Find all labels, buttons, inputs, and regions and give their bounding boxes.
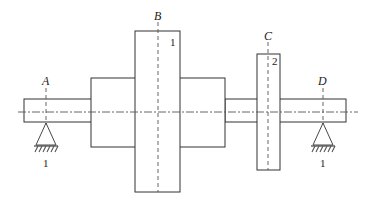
hub-right bbox=[179, 78, 225, 147]
part-number-disk-c: 2 bbox=[272, 55, 278, 67]
part-number-support-d: 1 bbox=[320, 157, 326, 169]
part-number-disk-b: 1 bbox=[170, 36, 176, 48]
support-a-triangle-icon bbox=[36, 123, 56, 145]
shaft-right bbox=[225, 99, 346, 122]
hub-left bbox=[91, 78, 136, 147]
label-b: B bbox=[154, 9, 162, 23]
support-a-hatch-icon bbox=[35, 146, 58, 152]
shaft-diagram: A B C D 1 2 1 1 bbox=[0, 0, 368, 204]
support-d bbox=[311, 123, 335, 152]
shaft-left bbox=[24, 99, 92, 122]
support-d-triangle-icon bbox=[313, 123, 333, 145]
support-d-hatch-icon bbox=[312, 146, 335, 152]
support-a bbox=[34, 123, 58, 152]
part-number-support-a: 1 bbox=[43, 157, 49, 169]
label-d: D bbox=[317, 74, 327, 88]
label-a: A bbox=[41, 74, 50, 88]
disk-b bbox=[135, 31, 180, 192]
label-c: C bbox=[264, 29, 273, 43]
